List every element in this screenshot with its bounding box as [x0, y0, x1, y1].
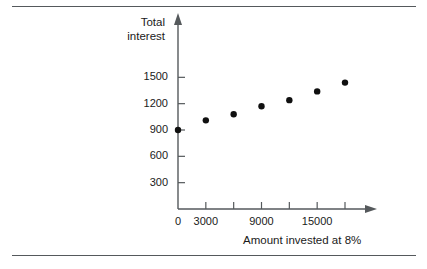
data-point [314, 88, 320, 94]
data-point [342, 79, 348, 85]
x-axis-tick-label: 15000 [293, 215, 341, 227]
data-point [230, 111, 236, 117]
scatter-plot-figure: Total interest Amount invested at 8% 300… [0, 0, 427, 269]
plot-canvas [0, 0, 427, 269]
y-axis-title: Total interest [127, 15, 165, 43]
axes-group [174, 13, 377, 213]
data-point-series [175, 79, 348, 133]
y-axis-title-line-2: interest [127, 29, 165, 43]
y-axis-tick-label: 900 [126, 123, 168, 135]
data-point [286, 97, 292, 103]
y-axis-title-line-1: Total [127, 15, 165, 29]
y-axis-tick-label: 1200 [126, 97, 168, 109]
x-axis-title: Amount invested at 8% [243, 233, 361, 247]
y-axis-tick-label: 1500 [126, 70, 168, 82]
data-point [258, 103, 264, 109]
x-axis-arrowhead [365, 205, 377, 213]
x-axis-ticks [206, 202, 345, 209]
x-axis-tick-label: 9000 [238, 215, 286, 227]
data-point [175, 127, 181, 133]
y-axis-tick-label: 600 [126, 149, 168, 161]
x-axis-tick-label: 3000 [182, 215, 230, 227]
data-point [203, 117, 209, 123]
y-axis-tick-label: 300 [126, 176, 168, 188]
y-axis-arrowhead [174, 13, 182, 25]
